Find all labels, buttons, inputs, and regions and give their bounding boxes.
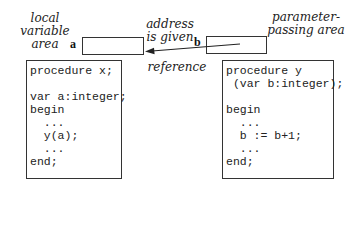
- procedure-y-box: procedure y (var b:integer); begin ... b…: [222, 60, 334, 179]
- procedure-x-box: procedure x; var a:integer; begin ... y(…: [26, 60, 122, 179]
- arrowhead-icon: [145, 48, 155, 54]
- reference-label: reference: [147, 61, 207, 74]
- procedure-x-code: procedure x; var a:integer; begin ... y(…: [30, 64, 121, 168]
- procedure-y-code: procedure y (var b:integer); begin ... b…: [226, 64, 333, 168]
